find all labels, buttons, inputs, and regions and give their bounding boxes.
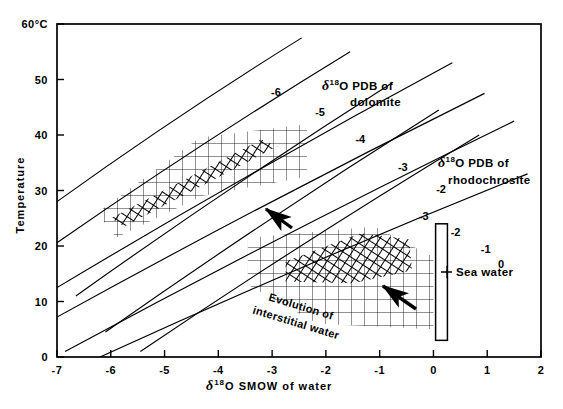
figure-container: -6-5-4-3-2-3-2-10 -7-6-5-4-3-2-1012 0102… — [0, 0, 563, 409]
rhodochrosite-label-line1: O PDB of — [455, 157, 509, 169]
contour-label-rhodochrosite--1: -1 — [481, 243, 491, 255]
y-tick-label-50: 50 — [35, 74, 48, 86]
x-tick-label--6: -6 — [105, 364, 116, 376]
x-tick-label--7: -7 — [52, 364, 63, 376]
y-tick-label-10: 10 — [35, 296, 48, 308]
x-tick-label--3: -3 — [267, 364, 278, 376]
dolomite-label-line1: O PDB of — [339, 80, 393, 92]
x-tick-label--2: -2 — [320, 364, 331, 376]
contour-label-rhodochrosite--2: -2 — [451, 226, 461, 238]
x-tick-label-2: 2 — [538, 364, 545, 376]
contour-label-dolomite--4: -4 — [355, 133, 366, 145]
x-axis-delta-symbol: δ — [206, 378, 214, 393]
y-tick-label-30: 30 — [35, 185, 48, 197]
x-tick-label-0: 0 — [430, 364, 437, 376]
y-axis-title: Temperature — [14, 157, 26, 234]
contour-label-dolomite--6: -6 — [271, 86, 281, 98]
sea-water-label-text: Sea water — [456, 266, 513, 278]
svg-text:δ18O SMOW of water: δ18O SMOW of water — [206, 378, 332, 393]
y-tick-label-20: 20 — [35, 240, 48, 252]
rhodochrosite-delta-symbol: δ — [438, 155, 446, 170]
y-tick-label-60°C: 60°C — [21, 18, 48, 30]
x-tick-label--1: -1 — [374, 364, 385, 376]
y-tick-label-40: 40 — [35, 129, 48, 141]
x-tick-label-1: 1 — [484, 364, 491, 376]
x-axis-superscript: 18 — [214, 378, 225, 387]
contour-label-rhodochrosite--3: -3 — [419, 210, 429, 222]
x-tick-label--4: -4 — [213, 364, 224, 376]
y-tick-label-0: 0 — [41, 351, 48, 363]
contour-label-dolomite--2: -2 — [436, 183, 446, 195]
rhodochrosite-label-line2: rhodochrosite — [448, 174, 531, 186]
sea-water-rect — [436, 224, 448, 341]
sea-water-box — [436, 224, 448, 341]
y-axis-title-text: Temperature — [14, 157, 26, 234]
x-tick-label--5: -5 — [159, 364, 170, 376]
oxygen-isotope-temperature-chart: -6-5-4-3-2-3-2-10 -7-6-5-4-3-2-1012 0102… — [0, 0, 563, 409]
contour-label-dolomite--3: -3 — [398, 161, 408, 173]
rhodochrosite-superscript: 18 — [446, 155, 456, 164]
dolomite-label-line2: dolomite — [350, 96, 401, 108]
x-axis-title: δ18O SMOW of water — [206, 378, 332, 393]
contour-label-dolomite--5: -5 — [315, 106, 325, 118]
dolomite-superscript: 18 — [330, 78, 340, 87]
x-axis-title-text: O SMOW of water — [225, 380, 332, 392]
dolomite-delta-symbol: δ — [322, 78, 330, 93]
chart-background — [0, 0, 563, 409]
